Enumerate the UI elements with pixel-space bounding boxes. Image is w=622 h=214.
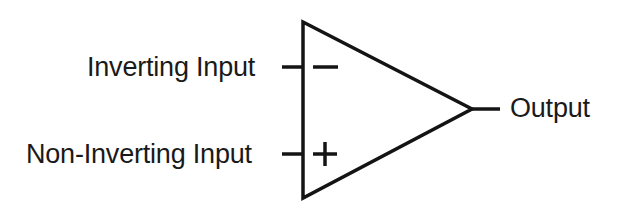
output-label: Output — [510, 95, 590, 122]
op-amp-triangle — [303, 22, 472, 198]
op-amp-diagram: Inverting Input Non-Inverting Input Outp… — [0, 0, 622, 214]
non-inverting-input-label: Non-Inverting Input — [26, 141, 252, 168]
inverting-input-label: Inverting Input — [87, 54, 255, 81]
plus-sign-icon — [313, 142, 337, 166]
